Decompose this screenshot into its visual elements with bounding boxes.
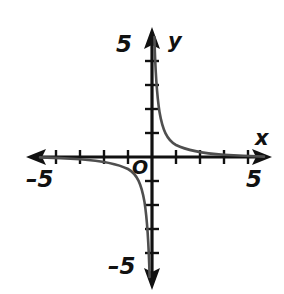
- y-axis-top-tick-label: 5: [116, 33, 132, 56]
- curve-branch-quadrant-I: [154, 37, 264, 157]
- origin-label: O: [132, 158, 148, 177]
- y-axis-name-label: y: [168, 31, 182, 52]
- coordinate-plane-svg: [0, 0, 284, 294]
- hyperbola-graph-figure: 5 y x 5 –5 –5 O: [0, 0, 284, 294]
- y-axis-bottom-tick-label: –5: [108, 255, 136, 278]
- x-axis-right-tick-label: 5: [246, 168, 262, 191]
- x-axis-left-tick-label: –5: [26, 168, 54, 191]
- x-axis-name-label: x: [255, 128, 269, 149]
